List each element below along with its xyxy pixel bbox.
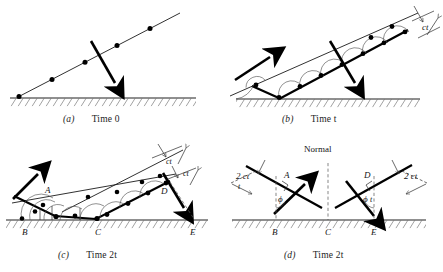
panel-a-drawing <box>0 0 222 112</box>
caption-d: (d)Time 2t <box>284 250 344 260</box>
caption-c-time: Time 2t <box>86 250 117 260</box>
point-B-label-c: B <box>22 227 28 237</box>
t-label-right-d: t <box>370 195 373 204</box>
huygens-wavelets-b <box>246 26 409 97</box>
panel-d: Normal 2 ct t 2 ct <box>222 136 443 248</box>
wavefront-outer-b <box>230 13 418 96</box>
caption-a-time: Time 0 <box>92 114 120 124</box>
ground-surface-c <box>6 220 208 228</box>
caption-b: (b)Time t <box>282 114 337 124</box>
t-label-left-d: t <box>238 182 241 191</box>
ground-surface-b <box>236 99 420 107</box>
phi-label-right-d: ϕ <box>363 194 368 204</box>
point-E-label-d: E <box>370 227 377 237</box>
caption-c: (c)Time 2t <box>58 250 117 260</box>
panel-c-drawing: ct ct A B C D E <box>0 136 222 248</box>
point-C-label-d: C <box>325 227 332 237</box>
point-A-label-c: A <box>44 185 51 195</box>
point-A-label-d: A <box>283 170 290 180</box>
point-D-label-c: D <box>160 186 168 196</box>
caption-a-letter: (a) <box>63 114 75 124</box>
ct-label-top-c: ct <box>166 157 173 166</box>
panel-b-drawing: ct <box>222 0 443 112</box>
wavefront-current-b <box>252 30 408 99</box>
ct-label-b: ct <box>422 22 429 32</box>
reflected-ray-arrow-b <box>235 57 270 80</box>
point-C-label-c: C <box>95 227 102 237</box>
phi-label-left-d: ϕ <box>278 194 283 204</box>
panel-b: ct (b)Time t <box>222 0 443 112</box>
point-D-label-d: D <box>363 170 371 180</box>
panel-c: ct ct A B C D E (c)Time 2t <box>0 136 222 248</box>
panel-d-drawing: Normal 2 ct t 2 ct <box>222 136 443 248</box>
caption-a: (a)Time 0 <box>63 114 120 124</box>
incident-ray-arrow-b <box>330 41 355 83</box>
caption-b-time: Time t <box>311 114 337 124</box>
two-ct-label-right-d: 2 ct <box>404 171 418 181</box>
wavefront-source-points-a <box>17 26 153 99</box>
point-B-label-d: B <box>272 227 278 237</box>
caption-d-time: Time 2t <box>313 250 344 260</box>
wavefront-reflected-c <box>14 181 170 219</box>
reflected-wavefront-d <box>335 165 412 208</box>
huygens-wavelets-c <box>21 181 164 220</box>
huygens-reflection-figure: (a)Time 0 <box>0 0 443 272</box>
caption-c-letter: (c) <box>58 250 69 260</box>
point-E-label-c: E <box>189 227 196 237</box>
dashed-line-to-E-c <box>170 182 194 219</box>
panel-a: (a)Time 0 <box>0 0 222 112</box>
normal-label-d: Normal <box>304 144 332 154</box>
caption-b-letter: (b) <box>282 114 294 124</box>
incident-ray-arrow-a <box>91 41 115 83</box>
wavefront-middle-c <box>12 174 176 203</box>
caption-d-letter: (d) <box>284 250 296 260</box>
two-ct-label-left-d: 2 ct <box>236 171 250 181</box>
ct-label-lower-c: ct <box>183 169 190 178</box>
ground-surface-a <box>10 98 196 106</box>
